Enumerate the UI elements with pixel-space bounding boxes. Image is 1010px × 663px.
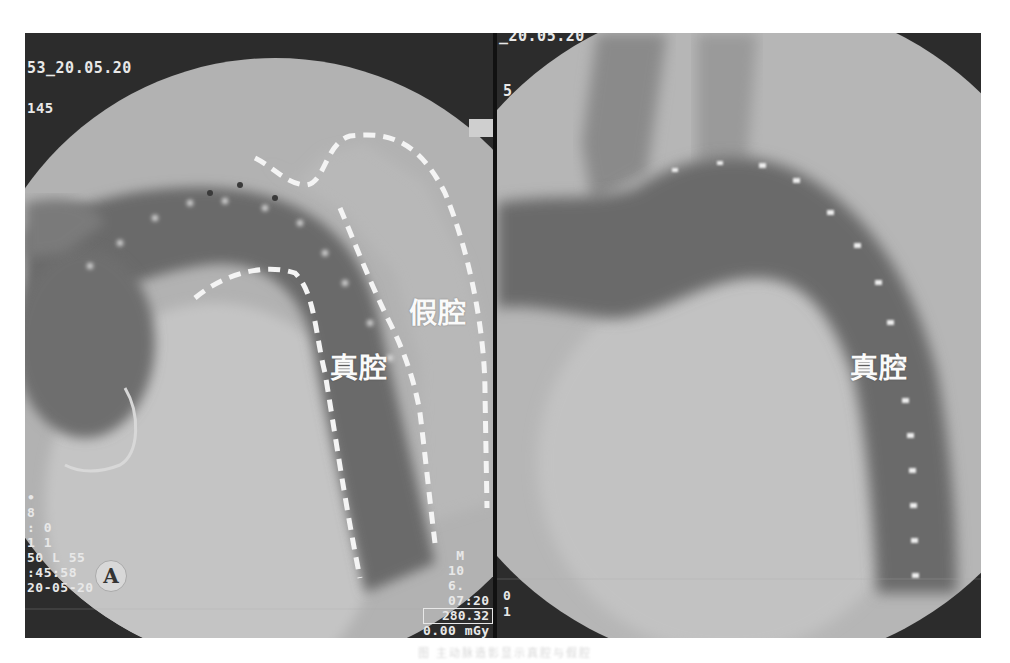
false-lumen-label: 假腔 — [409, 291, 467, 331]
frame-number-label-right: 5 — [503, 84, 513, 99]
window-level-label: 50 L 55 — [27, 550, 94, 565]
frame-number-label: 145 — [27, 101, 54, 116]
param-line-4: 1 1 — [27, 535, 94, 550]
acquisition-date-label: 20-05-20 — [27, 580, 94, 595]
figure-caption: 图 主动脉造影显示真腔与假腔 — [0, 644, 1010, 660]
dose-info-panel: M 10 6. — [448, 548, 465, 593]
logo-glyph: A — [103, 564, 119, 588]
dose-area-product-box: 280.32 — [423, 608, 493, 624]
true-lumen-label: 真腔 — [330, 346, 388, 386]
fluoro-time-label: 07:20 — [448, 593, 490, 608]
vendor-logo-icon: A — [95, 560, 127, 592]
left-angiogram-panel: 53_20.05.20 145 • 8 : 0 1 1 50 L 55 :45:… — [25, 33, 493, 638]
study-id-label-right: _20.05.20 — [499, 33, 585, 44]
param-line-3: : 0 — [27, 520, 94, 535]
right-angiogram-panel: _20.05.20 5 0 1 真腔 — [497, 33, 981, 638]
left-xray-image — [25, 33, 493, 638]
dose-line-1: M — [448, 548, 465, 563]
dose-line-3: 6. — [448, 578, 465, 593]
true-lumen-label-right: 真腔 — [850, 346, 908, 386]
param-line-right-1: 0 — [503, 588, 511, 603]
study-id-label: 53_20.05.20 — [27, 61, 132, 76]
acquisition-params-left: • 8 : 0 1 1 50 L 55 :45:58 20-05-20 — [27, 490, 94, 595]
right-xray-image — [497, 33, 981, 638]
param-line-1: • — [27, 490, 94, 505]
dose-unit-label: 0.00 mGy — [423, 623, 490, 638]
acquisition-time-label: :45:58 — [27, 565, 94, 580]
param-line-right-2: 1 — [503, 604, 511, 619]
angiography-figure: 53_20.05.20 145 • 8 : 0 1 1 50 L 55 :45:… — [25, 33, 981, 638]
dose-line-2: 10 — [448, 563, 465, 578]
param-line-2: 8 — [27, 505, 94, 520]
